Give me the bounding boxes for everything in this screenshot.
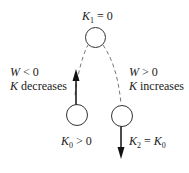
left-note-line2: K decreases: [9, 79, 67, 93]
right-note-line1: W > 0: [129, 65, 158, 79]
up-arrow-head: [73, 69, 80, 81]
right-node-label: K2 = K0: [128, 134, 166, 150]
down-arrow-head: [118, 147, 125, 159]
right-note-line2: K increases: [128, 79, 184, 93]
dashed-trajectory: [75, 45, 88, 95]
node-right: [112, 106, 133, 127]
node-top: [86, 28, 106, 48]
top-label: K1 = 0: [81, 9, 113, 25]
left-note-line1: W < 0: [10, 65, 39, 79]
left-node-label: K0 > 0: [60, 134, 92, 150]
diagram-canvas: K1 = 0 W < 0 K decreases W > 0 K increas…: [0, 0, 189, 173]
dashed-trajectory-right: [103, 45, 121, 104]
node-left: [67, 105, 88, 126]
